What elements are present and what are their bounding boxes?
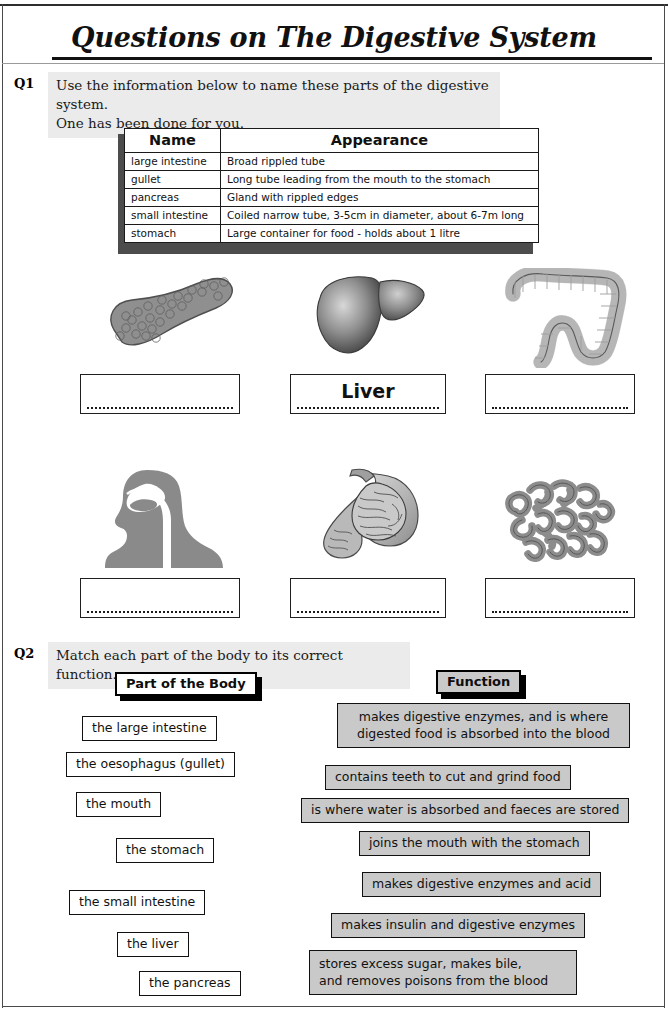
table-cell-appearance: Long tube leading from the mouth to the …: [221, 171, 539, 189]
table-row: small intestine Coiled narrow tube, 3-5c…: [125, 207, 539, 225]
q1-number: Q1: [14, 76, 34, 91]
table-cell-appearance: Gland with rippled edges: [221, 189, 539, 207]
table-cell-name: gullet: [125, 171, 221, 189]
appearance-table-wrap: Name Appearance large intestine Broad ri…: [124, 128, 539, 243]
stomach-figure-icon: [300, 468, 440, 568]
liver-figure-icon: [310, 272, 430, 364]
table-cell-appearance: Coiled narrow tube, 3-5cm in diameter, a…: [221, 207, 539, 225]
answer-dotted-line: [492, 407, 628, 409]
function-line-1: stores excess sugar, makes bile,: [319, 955, 567, 972]
answer-dotted-line: [492, 611, 628, 613]
part-box-small-intestine[interactable]: the small intestine: [69, 890, 205, 915]
column-header-parts: Part of the Body: [115, 672, 257, 696]
part-box-mouth[interactable]: the mouth: [76, 792, 161, 817]
q2-number: Q2: [14, 646, 34, 661]
q1-instruction-line1: Use the information below to name these …: [56, 76, 492, 114]
table-row: stomach Large container for food - holds…: [125, 225, 539, 243]
part-box-pancreas[interactable]: the pancreas: [139, 971, 241, 996]
answer-box-large-intestine[interactable]: [485, 374, 635, 414]
page-border-right: [664, 4, 665, 1008]
function-box-oesophagus[interactable]: joins the mouth with the stomach: [359, 831, 590, 856]
table-cell-appearance: Large container for food - holds about 1…: [221, 225, 539, 243]
answer-box-liver[interactable]: Liver: [290, 374, 446, 414]
function-box-large-intestine[interactable]: is where water is absorbed and faeces ar…: [301, 798, 629, 823]
part-box-oesophagus[interactable]: the oesophagus (gullet): [66, 752, 235, 777]
answer-dotted-line: [297, 611, 439, 613]
table-row: pancreas Gland with rippled edges: [125, 189, 539, 207]
page-top-rule: [0, 4, 668, 6]
answer-dotted-line: [297, 407, 439, 409]
function-line-2: and removes poisons from the blood: [319, 972, 567, 989]
answer-box-small-intestine[interactable]: [485, 578, 635, 618]
answer-dotted-line: [87, 611, 233, 613]
small-intestine-figure-icon: [500, 478, 620, 564]
column-header-functions: Function: [436, 670, 521, 694]
part-box-liver[interactable]: the liver: [117, 932, 189, 957]
table-cell-name: small intestine: [125, 207, 221, 225]
page-border-left: [2, 4, 3, 1008]
table-row: gullet Long tube leading from the mouth …: [125, 171, 539, 189]
appearance-table: Name Appearance large intestine Broad ri…: [124, 128, 539, 243]
title-underline: [52, 57, 652, 60]
table-cell-name: large intestine: [125, 153, 221, 171]
table-cell-name: pancreas: [125, 189, 221, 207]
pancreas-figure-icon: [92, 272, 242, 362]
function-box-small-intestine[interactable]: makes digestive enzymes, and is where di…: [337, 703, 630, 748]
function-box-mouth[interactable]: contains teeth to cut and grind food: [325, 765, 571, 790]
answer-text: Liver: [291, 380, 445, 402]
table-cell-appearance: Broad rippled tube: [221, 153, 539, 171]
table-header-appearance: Appearance: [221, 129, 539, 153]
large-intestine-figure-icon: [495, 268, 630, 368]
function-box-stomach[interactable]: makes digestive enzymes and acid: [362, 872, 601, 897]
table-cell-name: stomach: [125, 225, 221, 243]
function-box-pancreas[interactable]: makes insulin and digestive enzymes: [331, 913, 585, 938]
title-rule-below: [2, 63, 664, 64]
answer-box-mouth-gullet[interactable]: [80, 578, 240, 618]
part-box-large-intestine[interactable]: the large intestine: [82, 716, 217, 741]
function-line-1: makes digestive enzymes, and is where: [347, 708, 620, 725]
function-line-2: digested food is absorbed into the blood: [347, 725, 620, 742]
part-box-stomach[interactable]: the stomach: [116, 838, 214, 863]
answer-box-stomach[interactable]: [290, 578, 446, 618]
function-box-liver[interactable]: stores excess sugar, makes bile, and rem…: [309, 950, 577, 995]
table-row: large intestine Broad rippled tube: [125, 153, 539, 171]
table-header-row: Name Appearance: [125, 129, 539, 153]
mouth-gullet-figure-icon: [105, 470, 223, 568]
answer-dotted-line: [87, 407, 233, 409]
page-title: Questions on The Digestive System: [0, 22, 668, 53]
table-header-name: Name: [125, 129, 221, 153]
answer-box-pancreas[interactable]: [80, 374, 240, 414]
page-bottom-rule: [2, 1006, 664, 1007]
